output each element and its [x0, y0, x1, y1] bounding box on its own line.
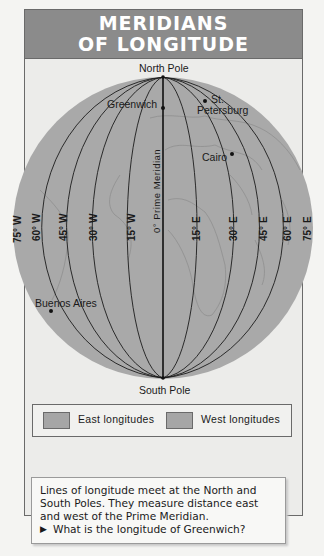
caption-box: Lines of longitude meet at the North and… — [31, 477, 286, 544]
cairo-label: Cairo — [202, 152, 227, 163]
north-pole-label: North Pole — [139, 63, 189, 74]
meridian-label-45w: 45° W — [59, 214, 69, 241]
meridian-label-30e: 30° E — [229, 216, 239, 241]
legend: East longitudes West longitudes — [32, 404, 292, 437]
greenwich-dot — [161, 106, 165, 110]
caption-question: ▶ What is the longitude of Greenwich? — [40, 523, 277, 536]
caption-text: Lines of longitude meet at the North and… — [40, 484, 277, 523]
globe-map — [0, 0, 324, 400]
question-text: What is the longitude of Greenwich? — [53, 523, 246, 536]
prime-meridian-label: 0° Prime Meridian — [152, 149, 162, 233]
meridian-label-30w: 30° W — [89, 214, 99, 241]
west-longitudes-label: West longitudes — [201, 413, 280, 425]
meridian-label-15w: 15° W — [127, 214, 137, 241]
meridian-label-75w: 75° W — [13, 216, 23, 243]
meridian-label-60w: 60° W — [32, 214, 42, 241]
south-pole-label: South Pole — [139, 385, 190, 396]
south-pole-dot — [161, 376, 165, 380]
east-longitudes-label: East longitudes — [78, 413, 154, 425]
meridian-label-60e: 60° E — [283, 216, 293, 241]
meridian-label-15e: 15° E — [192, 216, 202, 241]
cairo-dot — [230, 152, 234, 156]
buenos-aires-dot — [49, 309, 53, 313]
meridian-label-45e: 45° E — [259, 216, 269, 241]
greenwich-label: Greenwich — [107, 99, 157, 110]
play-triangle-icon: ▶ — [40, 523, 47, 536]
east-longitudes-swatch — [43, 412, 70, 429]
st-petersburg-dot — [203, 99, 207, 103]
meridian-label-75e: 75° E — [303, 216, 313, 241]
st-petersburg-label-2: Petersburg — [197, 105, 248, 116]
west-longitudes-swatch — [166, 412, 193, 429]
north-pole-dot — [161, 75, 165, 79]
buenos-aires-label: Buenos Aires — [35, 298, 97, 309]
